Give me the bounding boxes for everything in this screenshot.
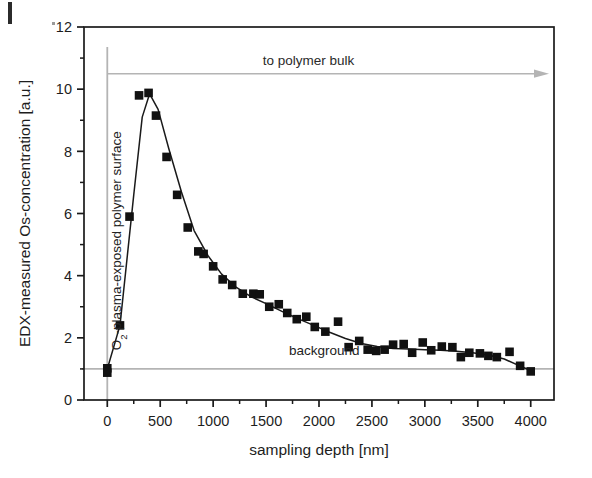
y-tick-label: 6 [64,206,72,222]
y-tick-label: 8 [64,144,72,160]
background-annotation: background [289,343,360,358]
data-point-marker [427,346,436,355]
data-point-marker [363,345,372,354]
data-point-marker [162,153,171,162]
x-tick-label: 2000 [303,413,335,429]
data-point-marker [183,223,192,232]
y-tick-label: 10 [56,81,72,97]
data-point-marker [173,191,182,200]
data-point-marker [103,368,112,377]
data-point-marker [526,367,535,376]
x-axis-label: sampling depth [nm] [249,441,389,458]
data-point-marker [465,348,474,357]
data-point-marker [437,342,446,351]
data-point-marker [265,302,274,311]
x-tick-label: 1500 [250,413,282,429]
data-point-marker [302,312,311,321]
bulk-arrow-head-icon [534,69,549,77]
data-point-marker [238,289,247,298]
data-point-marker [418,338,427,347]
data-point-marker [218,275,227,284]
data-point-marker [476,349,485,358]
surface-annotation-text: O2-plasma-exposed polymer surface [109,131,129,350]
y-axis-label: EDX-measured Os-concentration [a.u.] [16,80,33,347]
data-point-marker [199,250,208,259]
data-point-marker [255,290,264,299]
bulk-arrow-annotation: to polymer bulk [263,53,355,68]
y-tick-label: 0 [64,392,72,408]
y-tick-label: 12 [56,19,72,35]
data-point-marker [399,340,408,349]
x-tick-label: 2500 [356,413,388,429]
plot-canvas: 0500100015002000250030003500400002468101… [0,0,592,478]
data-point-marker [292,315,301,324]
data-point-marker [457,353,466,362]
data-point-marker [135,91,144,100]
x-tick-label: 3000 [409,413,441,429]
x-tick-label: 0 [103,413,111,429]
data-point-marker [144,89,153,98]
data-point-marker [209,262,218,271]
data-point-marker [321,327,330,336]
x-tick-label: 4000 [515,413,547,429]
surface-annotation: O2-plasma-exposed polymer surface [109,131,129,350]
y-tick-label: 4 [64,268,72,284]
data-point-marker [372,347,381,356]
data-point-marker [389,340,398,349]
data-point-marker [505,348,514,357]
data-point-marker [408,348,417,357]
edx-os-concentration-figure: 0500100015002000250030003500400002468101… [0,0,592,478]
data-point-marker [493,353,502,362]
data-point-marker [283,309,292,318]
data-point-marker [334,317,343,326]
x-tick-label: 500 [148,413,172,429]
data-point-marker [380,345,389,354]
y-tick-label: 2 [64,330,72,346]
data-point-marker [228,281,237,290]
data-point-marker [152,111,161,120]
data-point-marker [448,343,457,352]
data-point-marker [274,300,283,309]
data-point-marker [125,212,134,221]
data-point-marker [310,323,319,332]
x-tick-label: 3500 [462,413,494,429]
data-point-marker [516,362,525,371]
x-tick-label: 1000 [197,413,229,429]
data-point-marker [484,352,493,361]
data-series-markers [103,89,535,377]
